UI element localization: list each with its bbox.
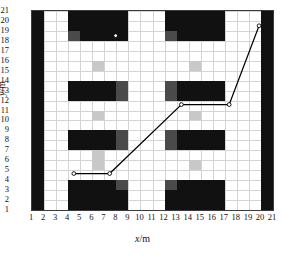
path-node-waypoint-1 — [108, 172, 112, 176]
path-node-waypoint-2 — [180, 103, 184, 107]
y-axis-label: y/m — [0, 81, 7, 96]
y-tick-label: 5 — [0, 165, 9, 174]
path-node-start — [72, 172, 76, 176]
y-tick-label: 16 — [0, 56, 9, 65]
y-tick-label: 18 — [0, 36, 9, 45]
path-node-goal — [257, 24, 261, 28]
occupancy-grid-plot — [31, 10, 274, 211]
y-tick-label: 11 — [0, 106, 9, 115]
planned-path-line — [74, 26, 259, 174]
y-tick-label: 4 — [0, 175, 9, 184]
y-tick-label: 7 — [0, 145, 9, 154]
figure-container: 123456789101112131415161718192021 123456… — [0, 0, 285, 257]
y-tick-label: 10 — [0, 115, 9, 124]
path-node-marker-upper — [114, 34, 118, 38]
y-tick-label: 2 — [0, 195, 9, 204]
path-layer — [32, 11, 273, 210]
grid-line-vertical — [273, 11, 274, 210]
y-tick-label: 6 — [0, 155, 9, 164]
x-tick-label: 21 — [262, 213, 282, 222]
grid-line-horizontal — [32, 210, 273, 211]
y-tick-label: 19 — [0, 26, 9, 35]
y-tick-label: 15 — [0, 66, 9, 75]
y-tick-label: 12 — [0, 96, 9, 105]
y-tick-label: 17 — [0, 46, 9, 55]
y-tick-label: 8 — [0, 135, 9, 144]
y-tick-label: 3 — [0, 185, 9, 194]
x-axis-label: x/m — [0, 233, 285, 244]
path-node-waypoint-3 — [227, 103, 231, 107]
y-tick-label: 9 — [0, 125, 9, 134]
y-tick-label: 20 — [0, 16, 9, 25]
y-tick-label: 21 — [0, 6, 9, 15]
y-tick-label: 1 — [0, 205, 9, 214]
